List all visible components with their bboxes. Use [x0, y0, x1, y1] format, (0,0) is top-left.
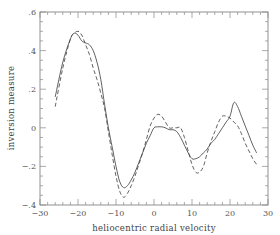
x-tick-labels: −30−20−100102030: [32, 209, 274, 218]
y-tick-label: .6: [28, 8, 36, 17]
plot-frame: [40, 12, 268, 205]
y-axis-label: inversion measure: [6, 66, 16, 151]
y-tick-label: −.4: [22, 201, 36, 210]
x-tick-label: 0: [151, 209, 156, 218]
x-tick-label: 10: [187, 209, 197, 218]
y-tick-label: 0: [31, 124, 36, 133]
y-tick-labels: −.4−.20.2.4.6: [22, 8, 36, 210]
axis-ticks: [40, 12, 268, 205]
data-series: [55, 31, 256, 197]
x-tick-label: 20: [225, 209, 235, 218]
dashed-series-line: [55, 31, 256, 197]
x-tick-label: −10: [108, 209, 125, 218]
y-tick-label: −.2: [22, 162, 36, 171]
solid-series-line: [55, 33, 256, 188]
x-axis-label: heliocentric radial velocity: [92, 223, 216, 233]
y-tick-label: .2: [28, 85, 36, 94]
line-chart: −30−20−100102030 −.4−.20.2.4.6 heliocent…: [0, 0, 280, 235]
x-tick-label: 30: [263, 209, 273, 218]
x-tick-label: −30: [32, 209, 49, 218]
x-tick-label: −20: [70, 209, 87, 218]
y-tick-label: .4: [28, 47, 36, 56]
